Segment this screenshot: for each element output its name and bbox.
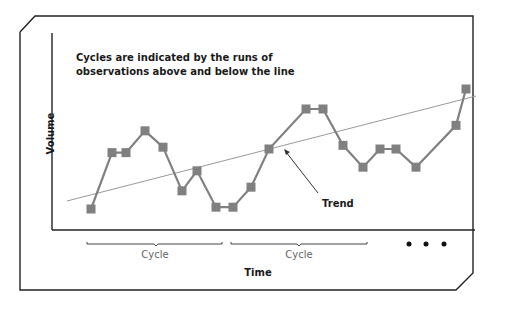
data-point-marker: [178, 186, 187, 195]
trend-arrow: [284, 149, 318, 193]
data-point-marker: [159, 143, 168, 152]
data-point-marker: [265, 145, 274, 154]
cycle-label-1: Cycle: [125, 249, 185, 260]
trend-label: Trend: [322, 198, 354, 209]
data-point-marker: [392, 145, 401, 154]
data-point-marker: [212, 203, 221, 212]
cycle-brace-1: [87, 242, 222, 246]
cycle-label-2: Cycle: [269, 249, 329, 260]
data-point-marker: [87, 205, 96, 214]
data-point-marker: [193, 166, 202, 175]
data-point-marker: [412, 163, 421, 172]
annotation-caption: Cycles are indicated by the runs of obse…: [76, 51, 336, 79]
y-axis-label: Volume: [45, 104, 56, 164]
data-point-marker: [452, 121, 461, 130]
data-point-marker: [247, 183, 256, 192]
x-axis-label: Time: [238, 267, 278, 278]
data-point-marker: [376, 145, 385, 154]
data-point-marker: [302, 105, 311, 114]
data-point-marker: [319, 105, 328, 114]
data-point-marker: [359, 163, 368, 172]
data-point-marker: [108, 148, 117, 157]
cycle-brace-2: [231, 242, 367, 246]
data-point-marker: [339, 141, 348, 150]
data-point-marker: [462, 85, 471, 94]
data-series: [87, 85, 471, 214]
diagram-canvas: [0, 0, 512, 312]
data-point-marker: [122, 148, 131, 157]
data-point-marker: [229, 203, 238, 212]
data-point-marker: [141, 126, 150, 135]
series-line: [91, 89, 466, 209]
continuation-dots: [407, 242, 447, 247]
